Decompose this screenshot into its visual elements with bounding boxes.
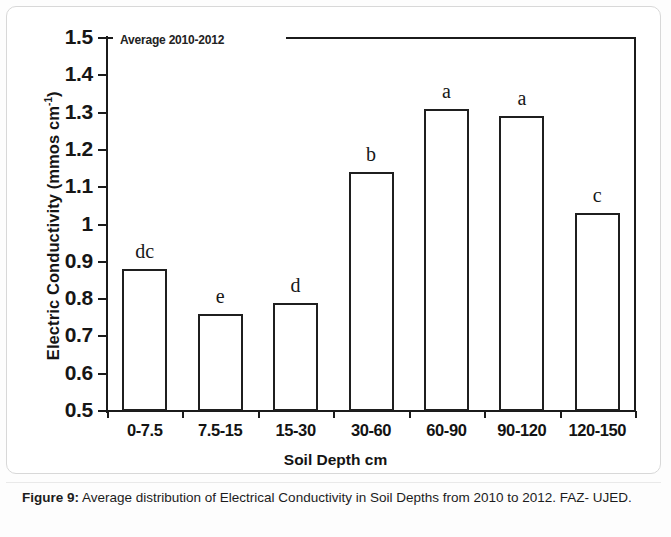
y-axis-tick [98,149,107,151]
y-axis-title-tail: ) [44,91,62,97]
x-axis-tick [333,411,335,418]
bar [499,116,544,411]
y-axis-title-exponent: -1 [43,97,54,106]
x-axis-tick [182,411,184,418]
y-axis-tick-label: 1.5 [31,25,93,49]
y-axis-tick [98,37,107,39]
y-axis-tick [98,74,107,76]
y-axis-tick [98,112,107,114]
plot-frame-right [634,37,636,412]
figure-caption: Figure 9: Average distribution of Electr… [22,489,652,507]
y-axis-tick [98,335,107,337]
caption-divider [6,482,661,483]
bar-chart: Average 2010-2012 1.51.41.31.21.110.90.8… [0,0,671,537]
x-axis-title: Soil Depth cm [0,451,671,469]
x-axis-tick [107,411,109,418]
y-axis-tick [98,298,107,300]
bar [273,303,318,411]
y-axis-tick [98,373,107,375]
bar-significance-letter: c [567,184,627,207]
y-axis-tick-label: 0.5 [31,398,93,422]
bar [122,269,167,411]
figure-caption-label: Figure 9: [22,490,79,505]
bar [198,314,243,411]
x-axis-tick [258,411,260,418]
y-axis-tick [98,186,107,188]
x-axis-category-label: 120-150 [552,421,642,440]
bar-significance-letter: d [266,274,326,297]
x-axis-tick [484,411,486,418]
x-axis-tick [409,411,411,418]
figure-page: Average 2010-2012 1.51.41.31.21.110.90.8… [0,0,671,537]
bar [349,172,394,411]
y-axis-tick [98,261,107,263]
plot-frame-top [286,37,636,39]
chart-annotation: Average 2010-2012 [120,33,224,47]
bar-significance-letter: dc [115,240,175,263]
y-axis-title-main: Electric Conductivity (mmos cm [44,106,62,360]
bar-significance-letter: e [190,285,250,308]
bar-significance-letter: b [341,143,401,166]
bar [424,109,469,411]
y-axis-tick [98,410,107,412]
y-axis-title: Electric Conductivity (mmos cm-1) [43,61,63,391]
x-axis-tick [635,411,637,418]
bar-significance-letter: a [416,80,476,103]
y-axis-tick [98,224,107,226]
x-axis-tick [560,411,562,418]
bar-significance-letter: a [492,87,552,110]
figure-caption-text: Average distribution of Electrical Condu… [79,490,632,505]
bar [575,213,620,411]
